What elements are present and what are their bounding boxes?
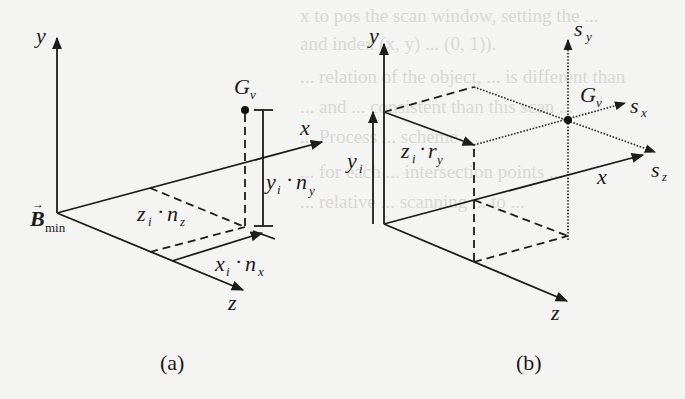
a-y-term-b-sub: y: [307, 183, 315, 198]
a-y-term-op: ·: [286, 167, 293, 192]
b-bottom-front-edge: [474, 236, 568, 262]
a-z-term-a-sub: i: [148, 214, 152, 229]
a-x-term-b: n: [245, 251, 256, 276]
figure-canvas: x to pos the scan window, setting the ..…: [0, 0, 685, 399]
a-z-term-op: ·: [157, 199, 164, 224]
b-gv-sub: v: [596, 95, 602, 110]
a-origin-vector-arrow: →: [32, 197, 44, 211]
b-sx-sub: x: [640, 105, 647, 120]
b-y-axis-label: y: [367, 23, 379, 48]
b-z-axis-label: z: [550, 300, 560, 325]
a-gv-label: G v: [234, 74, 256, 102]
bleed-line: ... for each ... intersection points ...: [300, 161, 563, 182]
a-x-axis-label: x: [299, 115, 310, 140]
a-y-term-a: y: [264, 169, 276, 194]
a-x-projection-line: [150, 227, 245, 252]
a-x-term-b-sub: x: [257, 264, 264, 279]
figure-svg: x to pos the scan window, setting the ..…: [0, 0, 685, 399]
bleed-line: ... relative ... scanning ... to ...: [300, 191, 525, 212]
b-z-term-a-sub: i: [412, 151, 416, 166]
b-z-term-b: r: [428, 138, 437, 163]
b-sy-base: s: [574, 16, 583, 41]
b-gv-point: [564, 116, 572, 124]
bleed-line: ... and ... consistent than this scan ..…: [300, 96, 573, 117]
b-yi-a-sub: i: [359, 161, 363, 176]
b-z-term-op: ·: [419, 136, 426, 161]
b-sz-label: s z: [651, 157, 667, 184]
a-gv-sub: v: [250, 87, 256, 102]
a-caption: (a): [160, 350, 184, 375]
b-z-term-a: z: [400, 138, 410, 163]
a-y-term-a-sub: i: [277, 182, 281, 197]
a-x-axis: [57, 142, 322, 213]
a-z-axis-label: z: [227, 290, 237, 315]
b-sx-label: s x: [630, 93, 647, 120]
a-x-term-a-sub: i: [226, 264, 230, 279]
b-gv-base: G: [580, 82, 596, 107]
a-z-term-b-sub: z: [179, 214, 185, 229]
b-x-axis-label: x: [596, 164, 607, 189]
a-x-term-op: ·: [235, 249, 242, 274]
bleed-line: x to pos the scan window, setting the ..…: [300, 5, 599, 26]
a-z-term-a: z: [136, 201, 146, 226]
a-gv-point: [241, 106, 249, 114]
b-yi-label: y i: [345, 148, 363, 176]
b-sz-sub: z: [661, 169, 667, 184]
a-y-axis-label: y: [34, 23, 46, 48]
a-z-term-b: n: [167, 201, 178, 226]
b-yi-a: y: [345, 148, 357, 173]
b-sx-base: s: [630, 93, 639, 118]
bleed-line: ... relation of the object, ... is diffe…: [300, 66, 626, 87]
a-y-term-b: n: [296, 169, 307, 194]
a-x-term: x i · n x: [214, 249, 264, 279]
panel-a: y x z B → min G v y i · n: [29, 23, 322, 375]
b-sy-sub: y: [584, 29, 592, 44]
a-x-term-a: x: [214, 251, 225, 276]
a-origin-sub: min: [45, 220, 66, 235]
a-gv-base: G: [234, 74, 250, 99]
bleed-line: and index (x, y) ... (0, 1)).: [300, 33, 496, 55]
a-origin-label: B → min: [29, 197, 66, 235]
a-z-term: z i · n z: [136, 199, 185, 229]
b-z-term-b-sub: y: [435, 152, 443, 167]
b-sz-base: s: [651, 157, 660, 182]
b-caption: (b): [516, 350, 542, 375]
